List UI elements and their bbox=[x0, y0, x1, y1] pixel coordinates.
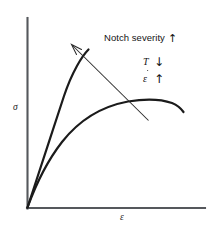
curve-low-notch-severity bbox=[28, 100, 184, 208]
strain-rate-annotation: ε↑ bbox=[143, 73, 164, 85]
strain-rate-symbol: ε bbox=[143, 73, 147, 84]
temperature-annotation: T↓ bbox=[143, 56, 164, 68]
x-axis-label: ε bbox=[120, 213, 124, 223]
overdot-icon bbox=[147, 70, 149, 72]
arrow-down-icon: ↓ bbox=[154, 56, 164, 68]
temperature-symbol: T bbox=[143, 57, 152, 67]
stress-strain-figure: σ ε Notch severity↑ T↓ ε↑ bbox=[0, 0, 221, 234]
arrow-up-icon: ↑ bbox=[168, 32, 177, 45]
y-axis-label: σ bbox=[13, 103, 18, 113]
notch-severity-label: Notch severity bbox=[104, 32, 165, 43]
strain-rate-symbol-group: ε bbox=[143, 74, 152, 84]
notch-severity-trend-line bbox=[73, 46, 149, 121]
arrow-up-icon: ↑ bbox=[154, 73, 164, 85]
notch-severity-annotation: Notch severity↑ bbox=[104, 32, 177, 43]
